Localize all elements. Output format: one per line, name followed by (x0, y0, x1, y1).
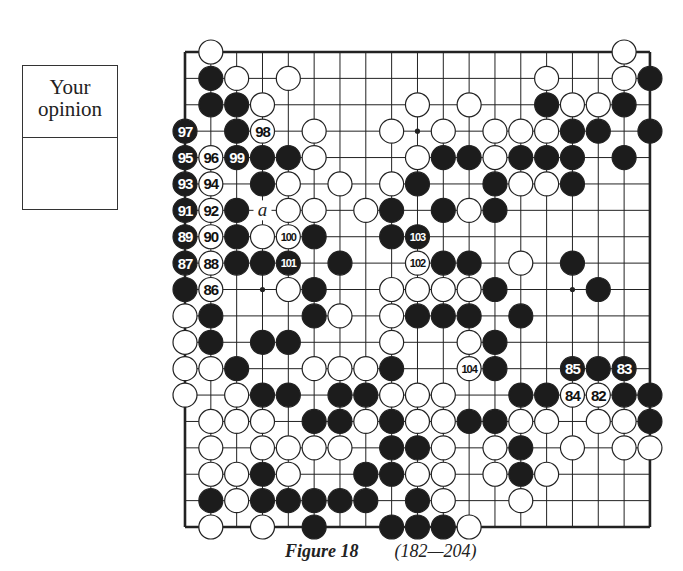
black-stone (250, 383, 274, 407)
black-stone (302, 225, 326, 249)
white-stone (380, 278, 404, 302)
white-stone (173, 304, 197, 328)
black-stone (638, 409, 662, 433)
white-stone (173, 330, 197, 354)
white-stone (405, 462, 429, 486)
black-stone (405, 489, 429, 513)
black-stone (483, 198, 507, 222)
black-stone (328, 251, 352, 275)
black-stone (250, 251, 274, 275)
black-stone: 97 (173, 119, 197, 143)
black-stone (250, 330, 274, 354)
white-stone (405, 409, 429, 433)
star-point (260, 287, 265, 292)
black-stone (483, 278, 507, 302)
black-stone: 93 (173, 172, 197, 196)
white-stone (250, 515, 274, 539)
black-stone (225, 251, 249, 275)
black-stone (586, 278, 610, 302)
black-stone: 85 (560, 357, 584, 381)
white-stone (328, 357, 352, 381)
white-stone: 92 (199, 198, 223, 222)
white-stone (509, 489, 533, 513)
white-stone (612, 66, 636, 90)
black-stone (380, 357, 404, 381)
white-stone (535, 462, 559, 486)
black-stone (431, 515, 455, 539)
black-stone (225, 198, 249, 222)
white-stone (354, 198, 378, 222)
black-stone: 95 (173, 146, 197, 170)
white-stone (225, 66, 249, 90)
black-stone (586, 119, 610, 143)
black-stone (405, 304, 429, 328)
black-stone (250, 489, 274, 513)
star-point (570, 287, 575, 292)
black-stone (199, 66, 223, 90)
black-stone (638, 383, 662, 407)
white-stone (405, 93, 429, 117)
white-stone (431, 409, 455, 433)
white-stone (328, 304, 352, 328)
black-stone (509, 436, 533, 460)
white-stone (457, 198, 481, 222)
move-number: 83 (617, 360, 632, 377)
black-stone (457, 409, 481, 433)
black-stone (638, 66, 662, 90)
white-stone: 82 (586, 383, 610, 407)
white-stone (586, 409, 610, 433)
white-stone (199, 409, 223, 433)
white-stone (509, 119, 533, 143)
white-stone (380, 172, 404, 196)
move-number: 93 (178, 175, 193, 192)
go-board-diagram: a 97989596999394919289901001038788101102… (0, 0, 683, 571)
white-stone (431, 383, 455, 407)
white-stone (328, 436, 352, 460)
black-stone (354, 383, 378, 407)
black-stone (560, 172, 584, 196)
black-stone (225, 119, 249, 143)
black-stone (535, 383, 559, 407)
black-stone (380, 198, 404, 222)
white-stone (380, 383, 404, 407)
black-stone (328, 409, 352, 433)
black-stone (612, 146, 636, 170)
black-stone (199, 330, 223, 354)
black-stone: 89 (173, 225, 197, 249)
move-number: 98 (255, 123, 270, 140)
white-stone (509, 172, 533, 196)
black-stone (638, 119, 662, 143)
move-range: (182—204) (395, 541, 477, 561)
black-stone (535, 93, 559, 117)
black-stone (457, 146, 481, 170)
white-stone: 90 (199, 225, 223, 249)
white-stone (535, 66, 559, 90)
black-stone (328, 489, 352, 513)
move-number: 104 (461, 363, 478, 375)
move-number: 82 (591, 387, 606, 404)
white-stone (457, 330, 481, 354)
move-number: 88 (203, 255, 218, 272)
black-stone (354, 489, 378, 513)
white-stone (276, 66, 300, 90)
black-stone (276, 330, 300, 354)
black-stone (509, 462, 533, 486)
white-stone (380, 119, 404, 143)
black-stone (535, 146, 559, 170)
white-stone (483, 146, 507, 170)
white-stone: 104 (457, 357, 481, 381)
white-stone (302, 198, 326, 222)
black-stone (509, 383, 533, 407)
white-stone (457, 278, 481, 302)
black-stone (612, 93, 636, 117)
black-stone (276, 146, 300, 170)
white-stone (535, 409, 559, 433)
white-stone (199, 436, 223, 460)
move-number: 87 (178, 255, 193, 272)
move-number: 90 (203, 228, 218, 245)
black-stone (302, 278, 326, 302)
black-stone (250, 462, 274, 486)
white-stone (483, 436, 507, 460)
white-stone (250, 409, 274, 433)
white-stone (560, 93, 584, 117)
